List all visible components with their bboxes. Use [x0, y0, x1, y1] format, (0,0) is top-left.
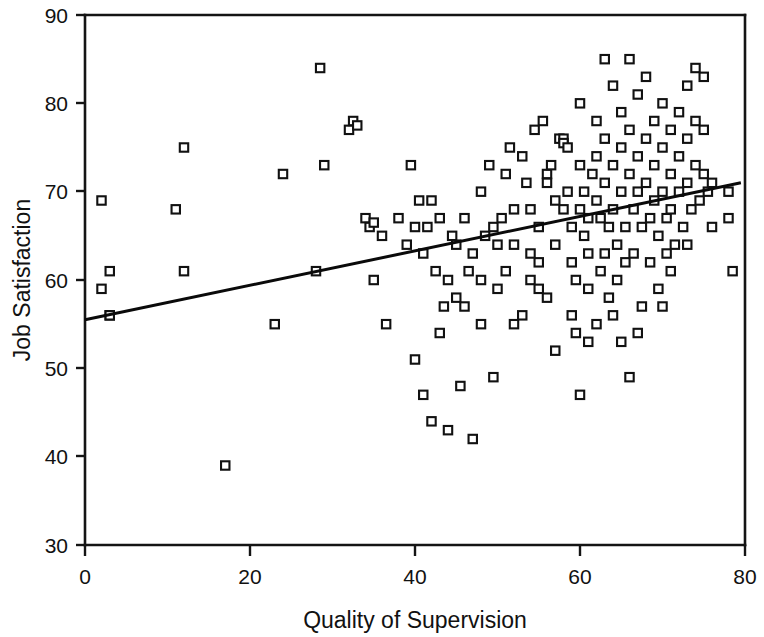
data-point-marker — [700, 170, 708, 178]
data-point-marker — [605, 293, 613, 301]
data-point-marker — [572, 276, 580, 284]
data-point-marker — [576, 161, 584, 169]
data-point-marker — [526, 205, 534, 213]
data-point-marker — [411, 223, 419, 231]
data-point-marker — [407, 161, 415, 169]
data-point-marker — [543, 179, 551, 187]
data-point-marker — [563, 187, 571, 195]
y-tick-label-50: 50 — [45, 357, 68, 380]
data-point-marker — [436, 329, 444, 337]
data-point-marker — [609, 81, 617, 89]
data-point-marker — [469, 435, 477, 443]
data-point-marker — [617, 108, 625, 116]
data-point-marker — [497, 214, 505, 222]
data-point-marker — [667, 267, 675, 275]
data-point-marker — [596, 214, 604, 222]
data-point-marker — [510, 320, 518, 328]
data-point-marker — [724, 214, 732, 222]
data-point-marker — [510, 240, 518, 248]
data-point-marker — [625, 55, 633, 63]
data-point-marker — [535, 285, 543, 293]
data-point-marker — [403, 240, 411, 248]
data-point-marker — [502, 170, 510, 178]
data-point-marker — [634, 187, 642, 195]
data-point-marker — [658, 302, 666, 310]
data-point-marker — [700, 73, 708, 81]
data-point-marker — [522, 179, 530, 187]
data-point-marker — [568, 258, 576, 266]
data-point-marker — [592, 196, 600, 204]
data-point-marker — [477, 276, 485, 284]
data-point-marker — [650, 117, 658, 125]
data-point-marker — [584, 338, 592, 346]
data-point-marker — [596, 267, 604, 275]
data-point-marker — [724, 187, 732, 195]
x-tick-label-80: 80 — [733, 565, 756, 588]
data-point-marker — [572, 329, 580, 337]
data-point-marker — [444, 426, 452, 434]
data-point-marker — [361, 214, 369, 222]
x-tick-label-60: 60 — [568, 565, 591, 588]
data-point-marker — [469, 249, 477, 257]
data-point-marker — [452, 293, 460, 301]
data-point-marker — [510, 205, 518, 213]
data-point-marker — [634, 329, 642, 337]
data-point-marker — [221, 461, 229, 469]
data-point-marker — [551, 240, 559, 248]
data-point-marker — [646, 214, 654, 222]
data-point-marker — [642, 134, 650, 142]
data-point-marker — [539, 117, 547, 125]
data-point-marker — [634, 152, 642, 160]
data-point-marker — [172, 205, 180, 213]
data-point-marker — [662, 249, 670, 257]
data-point-marker — [477, 187, 485, 195]
data-point-marker — [728, 267, 736, 275]
data-point-marker — [427, 196, 435, 204]
data-point-marker — [654, 232, 662, 240]
x-tick-label-40: 40 — [403, 565, 426, 588]
data-point-marker — [580, 232, 588, 240]
data-point-marker — [411, 355, 419, 363]
data-point-marker — [493, 240, 501, 248]
data-point-marker — [592, 320, 600, 328]
data-point-marker — [679, 223, 687, 231]
data-point-marker — [440, 302, 448, 310]
data-point-marker — [502, 267, 510, 275]
data-point-marker — [530, 126, 538, 134]
y-tick-label-60: 60 — [45, 269, 68, 292]
data-point-marker — [662, 214, 670, 222]
data-point-marker — [658, 143, 666, 151]
data-point-marker — [642, 179, 650, 187]
data-point-marker — [456, 382, 464, 390]
data-point-marker — [601, 55, 609, 63]
axis-lines — [85, 15, 745, 545]
data-point-marker — [415, 196, 423, 204]
data-point-marker — [613, 240, 621, 248]
data-point-marker — [477, 320, 485, 328]
data-point-marker — [646, 258, 654, 266]
y-tick-label-80: 80 — [45, 92, 68, 115]
data-point-marker — [691, 161, 699, 169]
data-point-marker — [97, 285, 105, 293]
y-axis-title: Job Satisfaction — [9, 199, 35, 361]
data-point-marker — [568, 311, 576, 319]
data-point-marker — [370, 218, 378, 226]
data-point-marker — [650, 161, 658, 169]
data-point-marker — [605, 223, 613, 231]
data-point-marker — [370, 276, 378, 284]
data-point-marker — [568, 223, 576, 231]
data-point-marker — [316, 64, 324, 72]
data-point-marker — [97, 196, 105, 204]
data-point-marker — [629, 249, 637, 257]
data-point-marker — [625, 373, 633, 381]
data-point-marker — [576, 391, 584, 399]
data-point-marker — [423, 223, 431, 231]
data-point-marker — [584, 285, 592, 293]
data-point-marker — [279, 170, 287, 178]
data-point-marker — [625, 126, 633, 134]
data-point-marker — [526, 249, 534, 257]
data-point-marker — [493, 285, 501, 293]
data-point-marker — [592, 117, 600, 125]
data-point-marker — [559, 205, 567, 213]
data-point-marker — [460, 214, 468, 222]
